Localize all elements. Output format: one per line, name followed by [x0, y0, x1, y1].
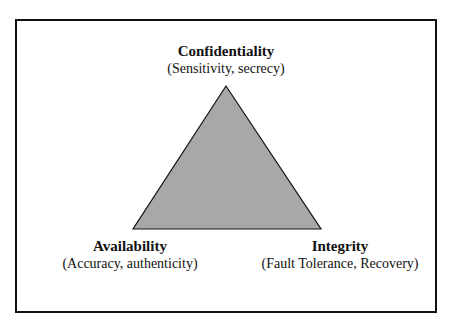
vertex-title: Availability	[40, 237, 220, 255]
vertex-integrity: Integrity (Fault Tolerance, Recovery)	[245, 237, 435, 273]
vertex-title: Integrity	[245, 237, 435, 255]
vertex-confidentiality: Confidentiality (Sensitivity, secrecy)	[126, 42, 326, 78]
vertex-subtitle: (Fault Tolerance, Recovery)	[245, 255, 435, 273]
vertex-availability: Availability (Accuracy, authenticity)	[40, 237, 220, 273]
vertex-subtitle: (Accuracy, authenticity)	[40, 255, 220, 273]
vertex-subtitle: (Sensitivity, secrecy)	[126, 60, 326, 78]
vertex-title: Confidentiality	[126, 42, 326, 60]
